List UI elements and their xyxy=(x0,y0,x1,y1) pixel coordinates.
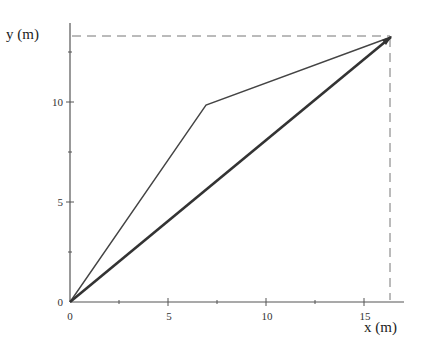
y-tick-10: 10 xyxy=(52,96,64,108)
displacement-line xyxy=(70,37,391,302)
y-axis-label: y (m) xyxy=(6,26,39,43)
y-tick-5: 5 xyxy=(58,196,64,208)
trajectory-chart: 0 5 10 15 0 5 10 y (m) x (m) xyxy=(0,0,428,345)
y-tick-0: 0 xyxy=(58,296,64,308)
x-tick-5: 5 xyxy=(166,310,172,322)
x-tick-10: 10 xyxy=(262,310,274,322)
x-tick-0: 0 xyxy=(67,310,73,322)
x-axis-label: x (m) xyxy=(364,319,397,336)
